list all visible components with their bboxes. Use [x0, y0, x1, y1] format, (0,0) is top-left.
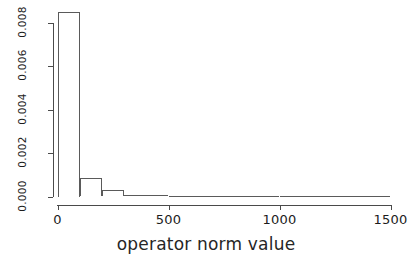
histogram-bar [235, 196, 257, 197]
y-axis-tick [48, 110, 53, 111]
histogram-bar [102, 190, 124, 196]
x-axis-tick [58, 205, 59, 210]
histogram-bar [324, 196, 346, 197]
y-axis-cap [53, 193, 54, 197]
x-axis-tick [280, 205, 281, 210]
y-axis-tick-label: 0.008 [16, 2, 28, 42]
y-axis-tick-label: 0.004 [16, 89, 28, 129]
y-axis-tick-label: 0.002 [16, 132, 28, 172]
y-axis-tick [48, 197, 53, 198]
histogram-bar [346, 196, 368, 197]
x-axis-tick-label: 500 [139, 212, 199, 227]
histogram-bar [213, 196, 235, 197]
x-axis-tick-label: 1500 [361, 212, 412, 227]
histogram-bar [80, 178, 102, 196]
y-axis-line [53, 23, 54, 197]
histogram-bar [257, 196, 279, 197]
histogram-chart: 0.0000.0020.0040.0060.008 050010001500 o… [0, 0, 412, 268]
x-axis-tick-label: 0 [28, 212, 88, 227]
plot-area [0, 0, 412, 268]
y-axis-tick-label: 0.006 [16, 45, 28, 85]
histogram-bar [368, 196, 390, 197]
histogram-bar [302, 196, 324, 197]
histogram-bar [191, 196, 213, 197]
y-axis-cap [53, 23, 54, 27]
x-axis-line [57, 205, 391, 206]
y-axis-tick-label: 0.000 [16, 176, 28, 216]
histogram-bar [280, 196, 302, 197]
histogram-bar [146, 195, 168, 196]
y-axis-tick [48, 66, 53, 67]
y-axis-tick [48, 153, 53, 154]
x-axis-title: operator norm value [0, 234, 412, 254]
histogram-bar [58, 12, 80, 196]
histogram-bar [169, 196, 191, 197]
x-axis-tick-label: 1000 [250, 212, 310, 227]
x-axis-tick [169, 205, 170, 210]
x-axis-tick [391, 205, 392, 210]
histogram-bar [124, 195, 146, 197]
